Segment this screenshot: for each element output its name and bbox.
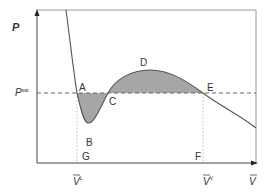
psat-label: Psat [15, 87, 29, 98]
vv-axis-label: VV [203, 175, 214, 187]
svg-text:VV: VV [203, 175, 214, 187]
lower-shaded-area [77, 93, 108, 123]
point-f-label: F [195, 151, 201, 162]
point-d-label: D [140, 57, 147, 68]
point-e-label: E [207, 82, 214, 93]
upper-shaded-area [108, 70, 203, 93]
pv-diagram: P Psat A B C D E F G VL VV V [0, 0, 268, 192]
point-a-label: A [79, 82, 86, 93]
point-b-label: B [86, 137, 93, 148]
point-c-label: C [109, 96, 116, 107]
x-axis-label: V [249, 175, 257, 187]
svg-text:VL: VL [73, 175, 83, 187]
y-axis-label: P [12, 21, 20, 33]
point-g-label: G [82, 151, 90, 162]
svg-text:V: V [249, 176, 257, 187]
x-axis-arrow-icon [251, 161, 258, 166]
vl-axis-label: VL [73, 175, 83, 187]
